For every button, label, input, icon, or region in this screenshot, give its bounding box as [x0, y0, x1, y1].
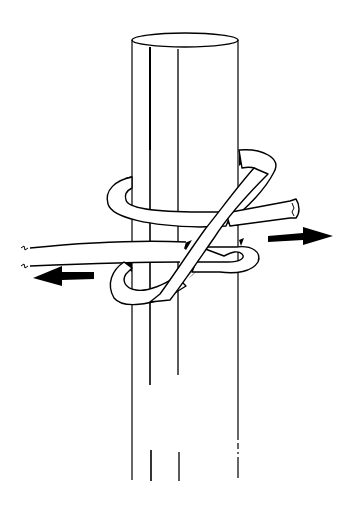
break-marks: [21, 246, 28, 268]
knot-illustration: [0, 0, 348, 507]
arrow-right-icon: [268, 227, 333, 245]
knot-figure: [0, 0, 348, 507]
rope: [30, 150, 299, 305]
arrow-left-icon: [33, 266, 94, 286]
